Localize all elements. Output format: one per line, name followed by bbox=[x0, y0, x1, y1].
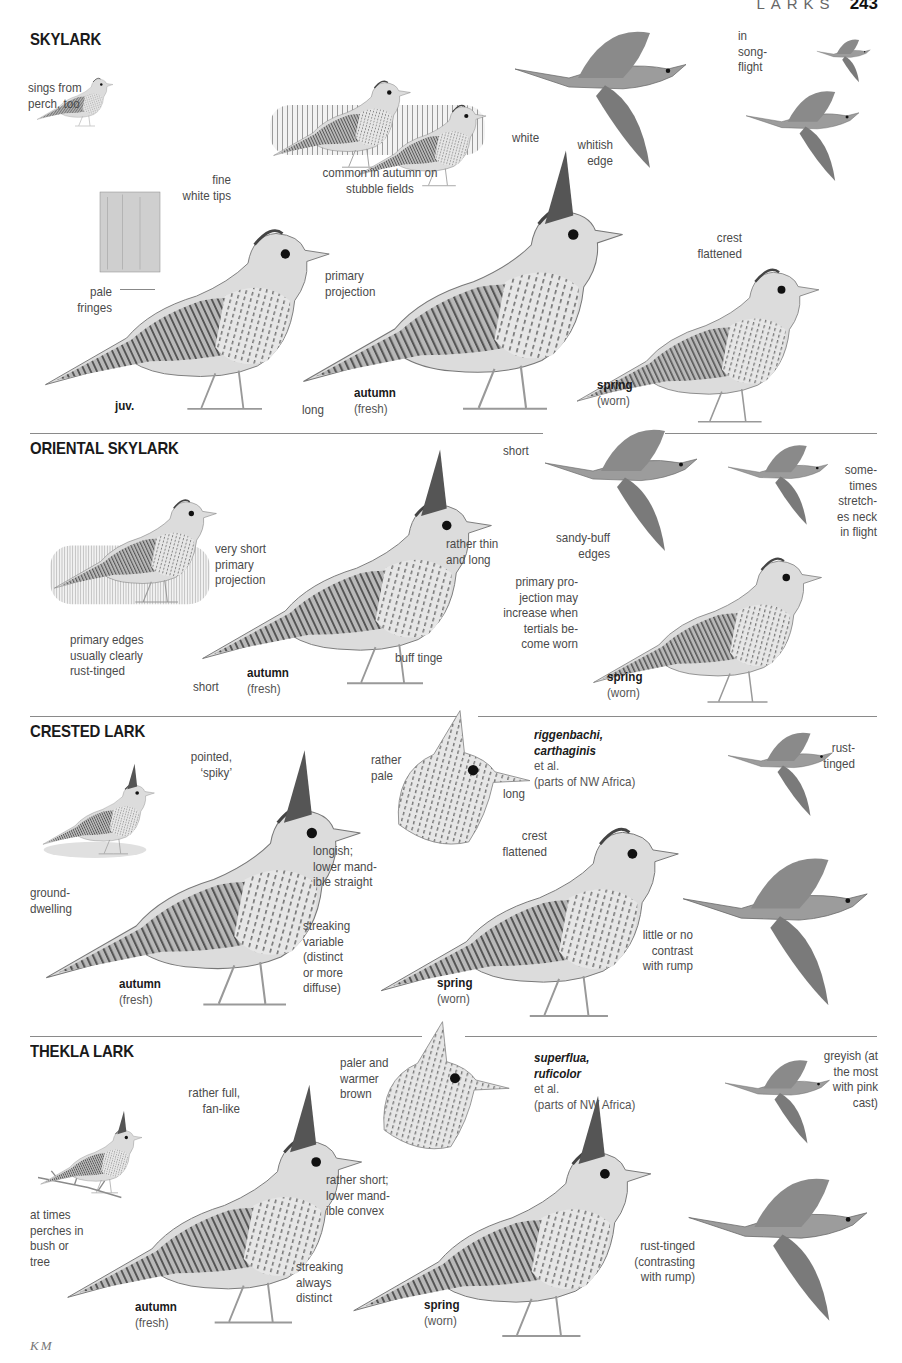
subspecies-name: riggenbachi, bbox=[534, 727, 635, 743]
plumage-label-spring: spring(worn) bbox=[607, 669, 642, 700]
running-head: LARKS243 bbox=[756, 0, 878, 14]
annotation-longish-bill: longish; lower mand- ible straight bbox=[313, 843, 377, 890]
plumage-label-spring: spring(worn) bbox=[597, 377, 632, 408]
subspecies-name: ruficolor bbox=[534, 1066, 635, 1082]
section-divider bbox=[465, 1036, 877, 1037]
annotation-long-bill: long bbox=[503, 786, 525, 802]
plumage-label-spring: spring(worn) bbox=[424, 1297, 459, 1328]
page-number: 243 bbox=[850, 0, 878, 13]
section-divider bbox=[478, 716, 877, 717]
section-divider bbox=[30, 433, 543, 434]
subspecies-name: superflua, bbox=[534, 1050, 635, 1066]
bird-illustration-spring bbox=[550, 540, 850, 705]
plumage-label-autumn: autumn(fresh) bbox=[119, 976, 161, 1007]
annotation-sings-from-perch: sings from perch, too bbox=[28, 80, 82, 111]
annotation-crest-flattened: crest flattened bbox=[689, 230, 742, 261]
subspecies-note: superflua, ruficolor et al. (parts of NW… bbox=[534, 1050, 635, 1112]
annotation-primary-edges: primary edges usually clearly rust-tinge… bbox=[70, 632, 144, 679]
plumage-label-autumn: autumn(fresh) bbox=[247, 665, 289, 696]
subspecies-range: (parts of NW Africa) bbox=[534, 1097, 635, 1113]
annotation-streaking-variable: streaking variable (distinct or more dif… bbox=[303, 918, 350, 996]
annotation-rust-tinged: rust- tinged bbox=[816, 740, 855, 771]
illustrator-credit: KM bbox=[30, 1338, 54, 1354]
annotation-long: long bbox=[302, 402, 324, 418]
annotation-song-flight: in song- flight bbox=[738, 28, 767, 75]
bird-illustration-stretching-neck bbox=[728, 443, 833, 533]
leader-line bbox=[120, 289, 155, 290]
annotation-white: white bbox=[512, 130, 539, 146]
plumage-label-spring: spring(worn) bbox=[437, 975, 472, 1006]
bird-illustration-songflight-large bbox=[738, 92, 873, 187]
annotation-short: short bbox=[503, 443, 529, 459]
annotation-whitish-edge: whitish edge bbox=[567, 137, 613, 168]
annotation-streaking-always-distinct: streaking always distinct bbox=[296, 1259, 343, 1306]
species-title: SKYLARK bbox=[30, 30, 101, 50]
annotation-greyish: greyish (at the most with pink cast) bbox=[811, 1048, 878, 1110]
subspecies-range: (parts of NW Africa) bbox=[534, 774, 635, 790]
annotation-buff-tinge: buff tinge bbox=[395, 650, 443, 666]
bird-illustration-spring bbox=[345, 1125, 640, 1340]
chapter-title: LARKS bbox=[756, 0, 835, 12]
section-divider bbox=[30, 1036, 422, 1037]
plumage-label-autumn: autumn(fresh) bbox=[354, 385, 396, 416]
bird-illustration-in-grass bbox=[50, 478, 210, 613]
bird-illustration-spring bbox=[525, 250, 855, 425]
bird-illustration-spring bbox=[370, 805, 670, 1020]
bird-illustration-stubble bbox=[265, 70, 490, 158]
species-title: THEKLA LARK bbox=[30, 1042, 134, 1062]
bird-illustration-songflight-small bbox=[810, 40, 880, 85]
subspecies-note: riggenbachi, carthaginis et al. (parts o… bbox=[534, 727, 635, 789]
bird-illustration-flight-above bbox=[685, 1180, 880, 1330]
annotation-primary-projection: primary projection bbox=[325, 268, 375, 299]
plumage-label-autumn: autumn(fresh) bbox=[135, 1299, 177, 1330]
bird-illustration-flight-above bbox=[680, 860, 880, 1015]
annotation-pale-fringes: pale fringes bbox=[67, 284, 112, 315]
annotation-fine-white-tips: fine white tips bbox=[174, 172, 231, 203]
annotation-sometimes-stretches-neck: some- times stretch- es neck in flight bbox=[824, 462, 877, 540]
species-title: CRESTED LARK bbox=[30, 722, 145, 742]
annotation-short-tail: short bbox=[193, 679, 219, 695]
species-title: ORIENTAL SKYLARK bbox=[30, 439, 179, 459]
annotation-rather-thin-and-long: rather thin and long bbox=[446, 536, 498, 567]
bird-illustration-autumn bbox=[38, 770, 348, 1020]
subspecies-name: carthaginis bbox=[534, 743, 635, 759]
plumage-label-juv: juv. bbox=[115, 398, 134, 414]
